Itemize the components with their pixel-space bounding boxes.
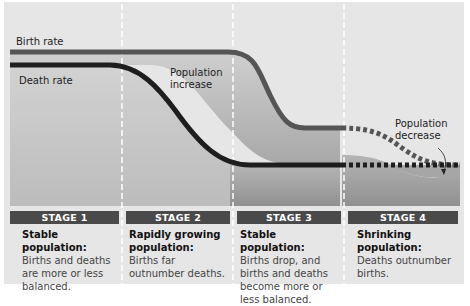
stage-4-label: STAGE 4 bbox=[348, 211, 458, 224]
stage-3-description: Stable population:Births drop, and birth… bbox=[240, 228, 344, 306]
stage-1-description: Stable population:Births and deaths are … bbox=[22, 228, 122, 293]
stage-4-description: Shrinking population:Deaths outnumber bi… bbox=[357, 228, 457, 280]
stage-2-label: STAGE 2 bbox=[126, 211, 230, 224]
stage-1-label: STAGE 1 bbox=[10, 211, 119, 224]
population-decrease-label: Population decrease bbox=[395, 118, 448, 142]
stage-2-description: Rapidly growing population:Births far ou… bbox=[129, 228, 229, 280]
stage-3-label: STAGE 3 bbox=[237, 211, 341, 224]
stage3-lower-area bbox=[230, 165, 340, 206]
birth-rate-label: Birth rate bbox=[16, 36, 64, 48]
death-rate-label: Death rate bbox=[19, 75, 73, 87]
population-increase-label: Population increase bbox=[170, 67, 223, 91]
